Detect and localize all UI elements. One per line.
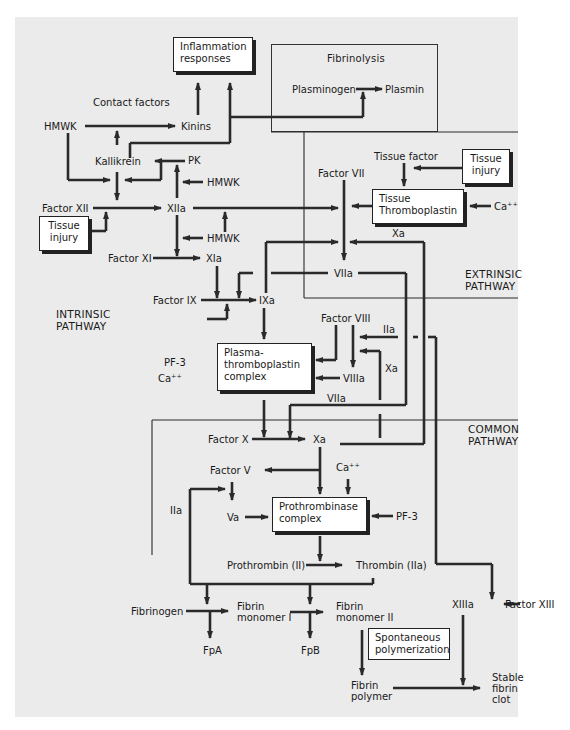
xiiia-label: XIIIa bbox=[452, 599, 474, 610]
spontaneous-polymerization-box: Spontaneous polymerization bbox=[368, 628, 450, 660]
ca-common-label: Ca⁺⁺ bbox=[336, 462, 360, 473]
contact-factors-label: Contact factors bbox=[93, 97, 170, 108]
box-text: complex bbox=[224, 371, 305, 383]
box-text: Inflammation bbox=[180, 41, 246, 53]
box-text: responses bbox=[180, 53, 246, 65]
pf3-left-label: PF-3 bbox=[164, 357, 186, 368]
box-text: Prothrombinase bbox=[279, 501, 360, 513]
xiia-label: XIIa bbox=[167, 203, 186, 214]
label-line: Fibrin bbox=[351, 680, 392, 691]
label-line: monomer I bbox=[237, 612, 291, 623]
hmwk-mid-label: HMWK bbox=[207, 177, 240, 188]
fibrin-polymer-label: Fibrin polymer bbox=[351, 680, 392, 702]
label-line: polymer bbox=[351, 691, 392, 702]
viia-low-label: VIIa bbox=[327, 393, 346, 404]
label-line: monomer II bbox=[336, 612, 393, 623]
factor-vii-label: Factor VII bbox=[318, 168, 365, 179]
section-text: PATHWAY bbox=[468, 435, 519, 447]
fibrin-monomer-ii-label: Fibrin monomer II bbox=[336, 601, 393, 623]
fpb-label: FpB bbox=[301, 645, 320, 656]
box-text: injury bbox=[46, 232, 82, 244]
label-line: Stable bbox=[492, 672, 524, 683]
box-text: Tissue bbox=[46, 220, 82, 232]
factor-xii-label: Factor XII bbox=[42, 203, 89, 214]
box-text: Tissue bbox=[379, 193, 457, 205]
viia-top-label: VIIa bbox=[334, 268, 353, 279]
box-text: complex bbox=[279, 513, 360, 525]
xa-viii-label: Xa bbox=[385, 363, 398, 374]
plasmin-label: Plasmin bbox=[385, 84, 424, 95]
label-line: fibrin bbox=[492, 683, 524, 694]
common-pathway-label: COMMON PATHWAY bbox=[468, 423, 519, 447]
factor-x-label: Factor X bbox=[208, 434, 249, 445]
pf3-right-label: PF-3 bbox=[396, 511, 418, 522]
label-line: clot bbox=[492, 694, 524, 705]
intrinsic-pathway-label: INTRINSIC PATHWAY bbox=[56, 308, 111, 332]
box-text: Spontaneous bbox=[375, 632, 443, 644]
kallikrein-label: Kallikrein bbox=[95, 156, 141, 167]
hmwk-top-label: HMWK bbox=[44, 121, 77, 132]
section-text: EXTRINSIC bbox=[465, 268, 522, 280]
thrombin-label: Thrombin (IIa) bbox=[356, 560, 427, 571]
plasminogen-label: Plasminogen bbox=[292, 84, 356, 95]
section-text: PATHWAY bbox=[465, 280, 522, 292]
iia-left-label: IIa bbox=[170, 505, 182, 516]
va-label: Va bbox=[227, 512, 239, 523]
box-text: thromboplastin bbox=[224, 359, 305, 371]
tissue-injury-box-left: Tissue injury bbox=[39, 216, 89, 251]
xa-common-label: Xa bbox=[313, 434, 326, 445]
viiia-label: VIIIa bbox=[343, 373, 365, 384]
fibrinogen-label: Fibrinogen bbox=[131, 606, 183, 617]
fibrinolysis-title: Fibrinolysis bbox=[327, 53, 385, 65]
tissue-factor-label: Tissue factor bbox=[374, 151, 438, 162]
tissue-injury-box-right: Tissue injury bbox=[462, 149, 510, 184]
label-line: Fibrin bbox=[336, 601, 393, 612]
ixa-label: IXa bbox=[259, 295, 275, 306]
box-text: polymerization bbox=[375, 644, 443, 656]
tissue-thromboplastin-box: Tissue Thromboplastin bbox=[372, 189, 464, 224]
section-text: PATHWAY bbox=[56, 320, 111, 332]
label-line: Fibrin bbox=[237, 601, 291, 612]
prothrombinase-box: Prothrombinase complex bbox=[272, 497, 367, 532]
fibrin-monomer-i-label: Fibrin monomer I bbox=[237, 601, 291, 623]
xa-extrinsic-label: Xa bbox=[392, 228, 405, 239]
factor-xiii-label: Factor XIII bbox=[505, 599, 555, 610]
box-text: injury bbox=[469, 165, 503, 177]
section-text: INTRINSIC bbox=[56, 308, 111, 320]
fpa-label: FpA bbox=[203, 645, 222, 656]
box-text: Tissue bbox=[469, 153, 503, 165]
iia-viii-label: IIa bbox=[383, 324, 395, 335]
plasma-thromboplastin-box: Plasma- thromboplastin complex bbox=[217, 343, 312, 391]
inflammation-responses-box: Inflammation responses bbox=[173, 37, 253, 72]
box-text: Thromboplastin bbox=[379, 205, 457, 217]
ca-left-label: Ca⁺⁺ bbox=[158, 373, 182, 384]
factor-ix-label: Factor IX bbox=[153, 295, 197, 306]
stable-fibrin-clot-label: Stable fibrin clot bbox=[492, 672, 524, 705]
pk-label: PK bbox=[188, 155, 201, 166]
prothrombin-label: Prothrombin (II) bbox=[227, 560, 305, 571]
factor-v-label: Factor V bbox=[210, 465, 251, 476]
factor-xi-label: Factor XI bbox=[108, 253, 152, 264]
kinins-label: Kinins bbox=[181, 121, 211, 132]
box-text: Plasma- bbox=[224, 347, 305, 359]
section-text: COMMON bbox=[468, 423, 519, 435]
ca-extrinsic-label: Ca⁺⁺ bbox=[494, 201, 518, 212]
xia-label: XIa bbox=[206, 253, 222, 264]
extrinsic-pathway-label: EXTRINSIC PATHWAY bbox=[465, 268, 522, 292]
factor-viii-label: Factor VIII bbox=[321, 313, 370, 324]
hmwk-low-label: HMWK bbox=[207, 233, 240, 244]
